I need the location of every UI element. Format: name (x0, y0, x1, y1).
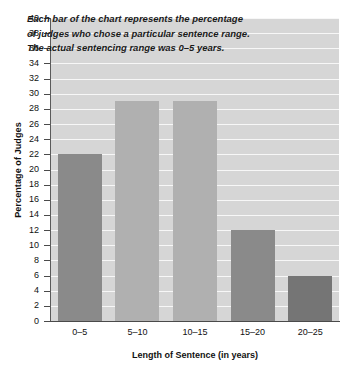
y-tick-mark (44, 124, 50, 125)
y-tick-label: 34 (17, 63, 39, 64)
y-tick-label: 22 (17, 154, 39, 155)
x-axis-title: Length of Sentence (in years) (51, 350, 339, 360)
y-tick-label: 18 (17, 184, 39, 185)
annotation-line: Each bar of the chart represents the per… (27, 12, 279, 27)
y-tick-label: 30 (17, 93, 39, 94)
bar (288, 276, 332, 321)
x-tick-label: 10–15 (165, 327, 225, 337)
y-tick-label: 20 (17, 169, 39, 170)
y-tick-label: 6 (17, 275, 39, 276)
x-tick-label: 15–20 (223, 327, 283, 337)
y-tick-mark (44, 230, 50, 231)
y-tick-mark (44, 79, 50, 80)
y-tick-label: 24 (17, 139, 39, 140)
annotation-line: The actual sentencing range was 0–5 year… (27, 41, 279, 56)
y-tick-mark (44, 306, 50, 307)
x-tick-label: 5–10 (107, 327, 167, 337)
y-tick-label: 32 (17, 78, 39, 79)
y-tick-mark (44, 63, 50, 64)
bar-chart-figure: Percentage of Judges 0246810121416182022… (0, 0, 349, 371)
y-tick-mark (44, 94, 50, 95)
y-tick-label: 2 (17, 305, 39, 306)
bar (115, 101, 159, 321)
y-tick-mark (44, 260, 50, 261)
bar (231, 230, 275, 321)
y-tick-mark (44, 245, 50, 246)
y-tick-label: 16 (17, 199, 39, 200)
plot-area (51, 18, 339, 321)
y-tick-label: 28 (17, 108, 39, 109)
y-tick-mark (44, 170, 50, 171)
y-tick-label: 0 (17, 321, 39, 322)
annotation-line: of judges who chose a particular sentenc… (27, 27, 279, 42)
chart-annotation: Each bar of the chart represents the per… (27, 12, 279, 56)
y-tick-label: 12 (17, 230, 39, 231)
y-tick-mark (44, 291, 50, 292)
bar (173, 101, 217, 321)
y-tick-label: 26 (17, 124, 39, 125)
gridline (51, 79, 339, 80)
x-axis-line (50, 321, 340, 322)
y-tick-label: 4 (17, 290, 39, 291)
y-tick-mark (44, 321, 50, 322)
y-axis-line (50, 18, 51, 322)
y-tick-mark (44, 109, 50, 110)
y-tick-mark (44, 185, 50, 186)
bar (58, 154, 102, 321)
gridline (51, 94, 339, 95)
x-tick-label: 20–25 (280, 327, 340, 337)
y-tick-mark (44, 139, 50, 140)
y-tick-label: 8 (17, 260, 39, 261)
y-tick-mark (44, 215, 50, 216)
x-tick-label: 0–5 (50, 327, 110, 337)
y-tick-mark (44, 200, 50, 201)
y-tick-mark (44, 276, 50, 277)
gridline (51, 63, 339, 64)
y-tick-label: 10 (17, 245, 39, 246)
y-tick-label: 14 (17, 214, 39, 215)
y-tick-mark (44, 154, 50, 155)
